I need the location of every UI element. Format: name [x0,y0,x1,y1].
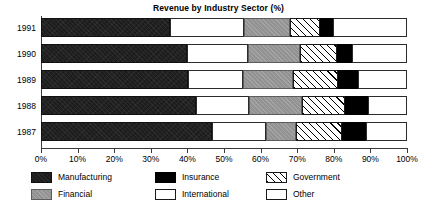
bar-segment-financial [249,96,302,115]
legend-item-other[interactable]: Other [266,187,314,201]
legend-swatch-manufacturing-icon [31,172,52,183]
legend-swatch-government-icon [266,172,287,183]
bar-segment-manufacturing [41,18,170,37]
bar-segment-international [170,18,244,37]
bar-segment-manufacturing [41,44,187,63]
x-axis-tick [41,149,42,153]
x-axis-label-30%: 30% [131,154,171,164]
bar-segment-government [302,96,345,115]
bar-segment-government [293,70,338,89]
bar-row [41,18,407,37]
bar-segment-other [333,18,407,37]
legend-item-financial[interactable]: Financial [31,187,92,201]
x-axis-tick [407,149,408,153]
bar-segment-other [352,44,407,63]
bar-segment-insurance [345,96,368,115]
legend-label: Manufacturing [58,172,112,182]
bar-segment-manufacturing [41,70,188,89]
x-axis-tick [224,149,225,153]
legend-item-government[interactable]: Government [266,170,340,184]
bar-segment-financial [266,122,296,141]
bar-row [41,70,407,89]
bar-segment-international [188,70,243,89]
x-axis-tick [151,149,152,153]
bar-segment-other [358,70,407,89]
legend-swatch-international-icon [155,189,176,200]
bar-segment-government [296,122,342,141]
chart-legend: ManufacturingFinancialInsuranceInternati… [31,170,421,204]
bar-segment-international [187,44,247,63]
x-axis-label-90%: 90% [350,154,390,164]
legend-label: Government [293,172,340,182]
bar-segment-government [290,18,320,37]
bar-segment-insurance [320,18,333,37]
y-axis-label-1991: 1991 [0,23,36,33]
stacked-bar-chart: Revenue by Industry Sector (%) 199119901… [0,0,437,208]
bar-segment-financial [244,18,290,37]
legend-label: Financial [58,189,92,199]
legend-label: Other [293,189,314,199]
x-axis-tick [78,149,79,153]
bar-row [41,44,407,63]
legend-swatch-financial-icon [31,189,52,200]
bar-segment-insurance [337,44,352,63]
bar-segment-financial [243,70,293,89]
bar-segment-insurance [338,70,358,89]
bar-segment-other [366,122,407,141]
x-axis-label-20%: 20% [94,154,134,164]
x-axis-tick [114,149,115,153]
bar-segment-financial [248,44,300,63]
x-axis-label-10%: 10% [58,154,98,164]
plot-area [41,18,407,147]
x-axis-tick [187,149,188,153]
x-axis-tick [261,149,262,153]
y-axis-label-1990: 1990 [0,49,36,59]
x-axis-label-80%: 80% [314,154,354,164]
chart-title: Revenue by Industry Sector (%) [0,3,437,13]
x-axis-label-0%: 0% [21,154,61,164]
bar-segment-manufacturing [41,96,196,115]
legend-item-manufacturing[interactable]: Manufacturing [31,170,112,184]
bar-segment-insurance [342,122,366,141]
y-axis-label-1989: 1989 [0,75,36,85]
bar-segment-government [300,44,337,63]
y-axis-label-1988: 1988 [0,101,36,111]
x-axis-label-40%: 40% [167,154,207,164]
x-axis-label-70%: 70% [277,154,317,164]
y-axis-label-1987: 1987 [0,127,36,137]
bar-segment-other [368,96,407,115]
legend-item-insurance[interactable]: Insurance [155,170,219,184]
legend-label: Insurance [182,172,219,182]
x-axis-label-60%: 60% [241,154,281,164]
bar-segment-manufacturing [41,122,212,141]
x-axis-label-50%: 50% [204,154,244,164]
x-axis-tick [297,149,298,153]
x-axis-label-100%: 100% [387,154,427,164]
x-axis-tick [370,149,371,153]
legend-item-international[interactable]: International [155,187,229,201]
bar-segment-international [212,122,266,141]
x-axis-tick [334,149,335,153]
bar-row [41,96,407,115]
legend-label: International [182,189,229,199]
bar-segment-international [196,96,249,115]
legend-swatch-other-icon [266,189,287,200]
legend-swatch-insurance-icon [155,172,176,183]
bar-row [41,122,407,141]
